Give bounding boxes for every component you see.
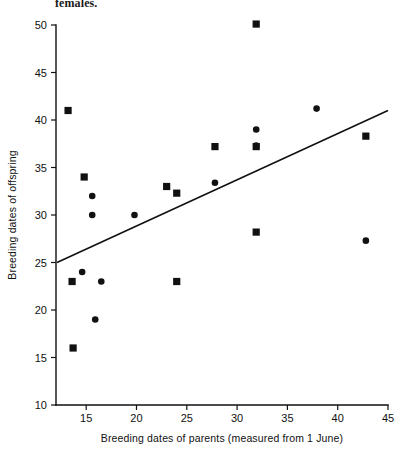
data-point-circle (212, 179, 219, 186)
x-tick-label: 30 (231, 412, 243, 424)
data-point-circle (79, 269, 86, 276)
y-tick-label: 15 (35, 352, 47, 364)
data-point-circle (98, 278, 105, 285)
x-tick-label: 35 (281, 412, 293, 424)
data-point-square (362, 133, 369, 140)
y-tick-label: 30 (35, 209, 47, 221)
x-tick-label: 45 (382, 412, 394, 424)
y-tick-label: 10 (35, 399, 47, 411)
y-tick-label: 45 (35, 67, 47, 79)
data-point-square (64, 107, 71, 114)
x-tick-label: 20 (130, 412, 142, 424)
data-point-circle (89, 212, 96, 219)
y-tick-label: 20 (35, 304, 47, 316)
x-tick-label: 40 (332, 412, 344, 424)
y-tick-label: 35 (35, 162, 47, 174)
data-point-circle (131, 212, 138, 219)
axes-group: 10152025303540455015202530354045 (35, 19, 394, 424)
data-point-circle (89, 193, 96, 200)
scatter-plot: 10152025303540455015202530354045 Breedin… (0, 0, 404, 453)
x-tick-label: 25 (181, 412, 193, 424)
y-tick-label: 25 (35, 257, 47, 269)
data-point-square (68, 278, 75, 285)
data-point-circle (363, 237, 370, 244)
figure-container: females. 1015202530354045501520253035404… (0, 0, 404, 453)
y-tick-label: 40 (35, 114, 47, 126)
y-tick-label: 50 (35, 19, 47, 31)
data-point-square (173, 278, 180, 285)
data-point-circle (253, 142, 260, 149)
data-points-group (64, 20, 369, 351)
regression-line (57, 111, 388, 263)
data-point-square (70, 344, 77, 351)
data-point-square (211, 143, 218, 150)
data-point-square (173, 190, 180, 197)
data-point-circle (92, 316, 99, 323)
data-point-square (81, 173, 88, 180)
data-point-square (253, 20, 260, 27)
y-axis-title: Breeding dates of offspring (6, 150, 18, 279)
x-axis-title: Breeding dates of parents (measured from… (101, 432, 343, 444)
data-point-circle (253, 126, 260, 133)
x-tick-label: 15 (80, 412, 92, 424)
regression-line-group (57, 111, 388, 263)
data-point-square (163, 183, 170, 190)
data-point-square (253, 229, 260, 236)
data-point-circle (313, 105, 320, 112)
